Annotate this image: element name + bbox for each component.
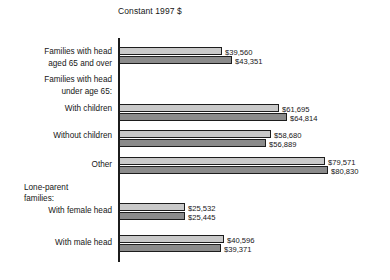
bar-aged-65-over-dark [119,56,232,64]
category-label-without-children: Without children [0,130,112,141]
value-label-aged-65-over-dark: $43,351 [235,58,262,66]
category-label-aged-65-over-line1: Families with head [0,46,112,57]
bar-without-children-light [119,130,271,138]
chart-title: Constant 1997 $ [118,6,182,16]
value-label-without-children-light: $58,680 [274,132,301,140]
value-label-without-children-dark: $56,889 [269,141,296,149]
category-label-female-head: With female head [0,205,112,216]
group-heading-under-65-line2: under age 65: [0,86,112,97]
bar-female-head-dark [119,212,185,220]
category-label-with-children: With children [0,103,112,114]
bar-with-children-dark [119,113,287,121]
value-label-male-head-dark: $39,371 [224,246,251,254]
bar-chart: Constant 1997 $ Families with head aged … [0,0,390,280]
value-label-other-dark: $80,830 [331,168,358,176]
group-heading-lone-parent-line2: families: [0,193,112,204]
value-label-other-light: $79,571 [328,159,355,167]
bar-other-light [119,157,325,165]
bar-other-dark [119,166,328,174]
bar-male-head-dark [119,244,221,252]
value-label-female-head-light: $25,532 [188,205,215,213]
bar-female-head-light [119,203,185,211]
category-label-aged-65-over-line2: aged 65 and over [0,58,112,69]
bar-aged-65-over-light [119,47,222,55]
value-label-male-head-light: $40,596 [227,237,254,245]
bar-with-children-light [119,104,279,112]
group-heading-under-65-line1: Families with head [0,74,112,85]
bar-male-head-light [119,235,224,243]
value-label-with-children-dark: $64,814 [290,115,317,123]
value-label-female-head-dark: $25,445 [188,214,215,222]
category-label-male-head: With male head [0,237,112,248]
category-label-other: Other [0,159,112,170]
value-axis-line [118,38,120,262]
group-heading-lone-parent-line1: Lone-parent [0,182,112,193]
bar-without-children-dark [119,139,266,147]
